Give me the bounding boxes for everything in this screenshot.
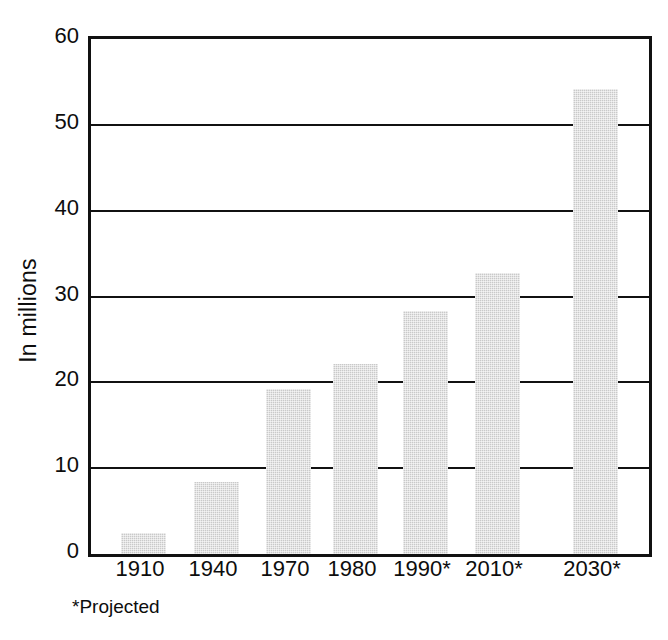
x-tick-label-1980: 1980 [328, 556, 377, 582]
x-axis-tick-labels: 19101940197019801990*2010*2030* [88, 556, 648, 590]
plot-area [88, 36, 652, 557]
bar-1980 [333, 364, 378, 554]
y-tick-label-60: 60 [36, 25, 84, 47]
bar-1910 [121, 533, 166, 554]
y-tick-label-10: 10 [36, 454, 84, 476]
y-tick-label-40: 40 [36, 197, 84, 219]
bar-2030 [573, 89, 618, 554]
gridline-30 [91, 296, 649, 298]
bar-chart-figure: In millions 0102030405060 19101940197019… [0, 0, 668, 640]
bar-1990 [403, 311, 448, 554]
y-axis-tick-labels: 0102030405060 [36, 0, 84, 640]
x-tick-label-1990: 1990* [393, 556, 451, 582]
bar-1940 [194, 482, 239, 554]
bar-2010 [475, 273, 520, 554]
x-tick-label-1970: 1970 [261, 556, 310, 582]
gridline-50 [91, 124, 649, 126]
y-tick-label-0: 0 [36, 540, 84, 562]
y-tick-label-30: 30 [36, 283, 84, 305]
plot-inner [91, 39, 649, 554]
footnote-projected: *Projected [72, 596, 160, 618]
x-tick-label-2030: 2030* [563, 556, 621, 582]
bar-1970 [266, 389, 311, 554]
x-tick-label-1940: 1940 [189, 556, 238, 582]
gridline-40 [91, 210, 649, 212]
y-tick-label-20: 20 [36, 368, 84, 390]
x-tick-label-1910: 1910 [116, 556, 165, 582]
x-tick-label-2010: 2010* [465, 556, 523, 582]
y-tick-label-50: 50 [36, 111, 84, 133]
